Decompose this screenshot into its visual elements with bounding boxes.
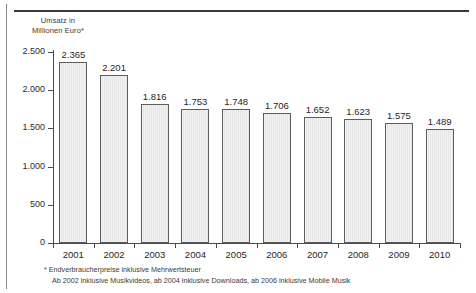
y-axis-tick bbox=[48, 167, 53, 168]
y-axis-tick bbox=[48, 90, 53, 91]
plot-area: 2.5002.0001.5001.0005000 2.3652.2011.816… bbox=[0, 0, 476, 293]
x-axis-tick bbox=[53, 243, 54, 248]
bar bbox=[263, 113, 291, 243]
bar bbox=[385, 123, 413, 243]
bar bbox=[344, 119, 372, 243]
x-axis-tick bbox=[379, 243, 380, 248]
x-axis-tick bbox=[216, 243, 217, 248]
x-axis-tick bbox=[175, 243, 176, 248]
x-axis-tick bbox=[257, 243, 258, 248]
footnote-line-1: * Endverbraucherpreise inklusive Mehrwer… bbox=[44, 265, 201, 274]
x-axis-tick bbox=[134, 243, 135, 248]
x-axis-tick bbox=[297, 243, 298, 248]
y-axis-tick-label: 2.500 bbox=[5, 46, 45, 56]
y-axis-tick bbox=[48, 128, 53, 129]
x-axis-tick bbox=[460, 243, 461, 248]
y-axis-tick-label: 500 bbox=[5, 199, 45, 209]
x-axis-tick bbox=[338, 243, 339, 248]
bar bbox=[100, 75, 128, 243]
y-axis-tick-label: 1.500 bbox=[5, 122, 45, 132]
x-axis-tick bbox=[419, 243, 420, 248]
y-axis-tick bbox=[48, 205, 53, 206]
bar bbox=[141, 104, 169, 243]
y-axis-tick-label: 1.000 bbox=[5, 161, 45, 171]
bar bbox=[426, 129, 454, 243]
y-axis-line bbox=[53, 50, 54, 244]
bar-value-label: 1.489 bbox=[415, 116, 465, 127]
footnote-line-2: Ab 2002 inklusive Musikvideos, ab 2004 i… bbox=[52, 276, 350, 285]
category-label: 2010 bbox=[415, 249, 465, 260]
chart-page: Umsatz in Millionen Euro* 2.5002.0001.50… bbox=[0, 0, 476, 293]
y-axis-tick-label: 2.000 bbox=[5, 84, 45, 94]
bar bbox=[304, 117, 332, 243]
y-axis-tick-label: 0 bbox=[5, 237, 45, 247]
bar bbox=[59, 62, 87, 243]
bar-value-label: 2.201 bbox=[89, 62, 139, 73]
bar bbox=[181, 109, 209, 243]
bar bbox=[222, 109, 250, 243]
x-axis-tick bbox=[94, 243, 95, 248]
bar-value-label: 2.365 bbox=[48, 49, 98, 60]
